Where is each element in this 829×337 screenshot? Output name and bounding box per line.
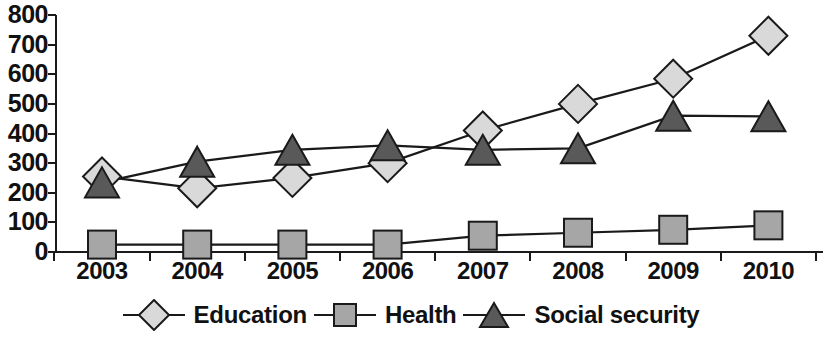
data-point-marker: [654, 60, 692, 98]
x-axis-tick-label: 2009: [647, 258, 698, 284]
x-axis-tick-label: 2003: [76, 258, 127, 284]
data-point-marker: [659, 216, 687, 244]
x-axis-tick-label: 2004: [171, 258, 222, 284]
x-axis-tick-label: 2008: [552, 258, 603, 284]
legend-label: Health: [385, 301, 457, 329]
data-point-marker: [754, 211, 782, 239]
chart-container: 8007006005004003002001000 20032004200520…: [0, 0, 829, 337]
x-axis-tick-label: 2007: [457, 258, 508, 284]
series-markers: [83, 17, 787, 259]
x-axis-tick-label: 2010: [743, 258, 794, 284]
data-point-marker: [469, 222, 497, 250]
data-point-marker: [180, 147, 214, 177]
legend-item-education[interactable]: Education: [123, 299, 314, 331]
data-point-marker: [564, 219, 592, 247]
x-axis-tick-label: 2005: [267, 258, 318, 284]
legend-swatch-square-icon: [314, 299, 376, 331]
chart-legend: EducationHealthSocial security: [0, 292, 829, 337]
legend-swatch-triangle-icon: [463, 299, 525, 331]
legend-label: Education: [194, 301, 307, 329]
plot-area: [0, 0, 829, 290]
legend-item-health[interactable]: Health: [314, 299, 464, 331]
legend-item-social-security[interactable]: Social security: [463, 299, 706, 331]
legend-label: Social security: [534, 301, 699, 329]
data-point-marker: [88, 231, 116, 259]
data-point-marker: [278, 231, 306, 259]
axes: [48, 15, 823, 261]
data-point-marker: [374, 231, 402, 259]
data-point-marker: [183, 231, 211, 259]
x-axis-tick-label: 2006: [362, 258, 413, 284]
data-point-marker: [559, 85, 597, 123]
data-point-marker: [749, 17, 787, 55]
legend-swatch-diamond-icon: [123, 299, 185, 331]
